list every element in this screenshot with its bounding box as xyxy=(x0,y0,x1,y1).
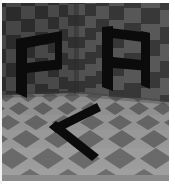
right-matte-border xyxy=(169,0,175,184)
top-matte-border xyxy=(0,0,175,3)
scene-canvas xyxy=(0,0,175,184)
floor-surface xyxy=(0,3,169,181)
bottom-edge-strip xyxy=(0,175,169,181)
left-matte-border xyxy=(0,0,2,184)
rendered-scene xyxy=(0,3,169,181)
